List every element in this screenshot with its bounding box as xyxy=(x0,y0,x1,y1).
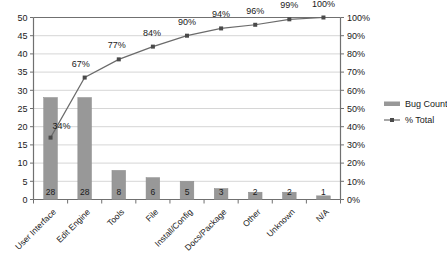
percent-data-label: 77% xyxy=(108,40,126,50)
right-axis-tick-label: 20% xyxy=(347,158,365,168)
left-axis-tick-label: 20 xyxy=(17,122,27,132)
left-axis-tick-label: 35 xyxy=(17,67,27,77)
right-axis-tick-label: 100% xyxy=(347,13,370,23)
right-axis-tick-label: 40% xyxy=(347,122,365,132)
left-axis-tick-label: 0 xyxy=(22,195,27,205)
bar-value-label: 2 xyxy=(253,187,258,197)
line-marker xyxy=(49,136,53,140)
bar-value-label: 6 xyxy=(151,187,156,197)
legend-marker-percent-total xyxy=(390,118,394,122)
line-marker xyxy=(219,26,223,30)
percent-data-label: 96% xyxy=(246,6,264,16)
right-axis-tick-label: 30% xyxy=(347,140,365,150)
right-axis-tick-label: 0% xyxy=(347,195,360,205)
line-marker xyxy=(83,76,87,80)
pareto-chart: 05101520253035404550 0%10%20%30%40%50%60… xyxy=(0,0,447,269)
left-axis-tick-label: 30 xyxy=(17,86,27,96)
chart-canvas: 05101520253035404550 0%10%20%30%40%50%60… xyxy=(0,0,447,269)
line-marker xyxy=(287,17,291,21)
percent-data-label: 99% xyxy=(280,0,298,10)
line-marker xyxy=(151,45,155,49)
line-marker xyxy=(117,57,121,61)
legend-label-bug-count: Bug Count xyxy=(405,99,447,109)
line-marker xyxy=(185,34,189,38)
left-axis-tick-label: 50 xyxy=(17,13,27,23)
legend-swatch-bug-count xyxy=(384,102,400,107)
right-axis-tick-label: 90% xyxy=(347,31,365,41)
bar xyxy=(78,98,92,200)
bar-value-label: 1 xyxy=(321,187,326,197)
bar xyxy=(44,98,58,200)
left-axis-tick-label: 10 xyxy=(17,158,27,168)
right-axis-tick-label: 50% xyxy=(347,104,365,114)
percent-data-label: 84% xyxy=(143,28,161,38)
bar-value-label: 5 xyxy=(185,187,190,197)
percent-data-label: 67% xyxy=(72,59,90,69)
percent-data-label: 90% xyxy=(178,17,196,27)
right-axis-tick-label: 70% xyxy=(347,67,365,77)
percent-data-label: 34% xyxy=(53,121,71,131)
percent-data-label: 100% xyxy=(312,0,335,9)
right-axis-tick-label: 60% xyxy=(347,86,365,96)
bar-value-label: 3 xyxy=(219,187,224,197)
line-marker xyxy=(253,23,257,27)
percent-data-label: 94% xyxy=(212,9,230,19)
line-marker xyxy=(321,16,325,20)
left-axis-tick-label: 5 xyxy=(22,177,27,187)
left-axis-tick-label: 25 xyxy=(17,104,27,114)
right-axis-tick-label: 10% xyxy=(347,177,365,187)
left-axis-tick-label: 40 xyxy=(17,49,27,59)
legend-label-percent-total: % Total xyxy=(405,115,434,125)
left-axis-tick-label: 15 xyxy=(17,140,27,150)
right-axis-tick-label: 80% xyxy=(347,49,365,59)
left-axis-tick-label: 45 xyxy=(17,31,27,41)
bar-value-label: 28 xyxy=(46,187,56,197)
bar-value-label: 28 xyxy=(80,187,90,197)
bar-value-label: 8 xyxy=(116,187,121,197)
bar-value-label: 2 xyxy=(287,187,292,197)
